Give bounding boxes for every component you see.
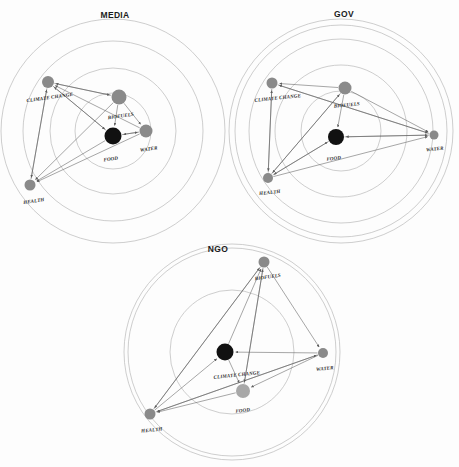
node-biofuels[interactable]: BIOFUELS: [333, 82, 361, 109]
node-label-climate-change: CLIMATE CHANGE: [254, 93, 301, 103]
node-health[interactable]: HEALTH: [258, 173, 282, 196]
edge-health-to-water: [273, 137, 427, 177]
edge-biofuels-to-food: [338, 95, 344, 127]
node-circle-biofuels[interactable]: [112, 90, 127, 105]
node-label-food: FOOD: [235, 407, 250, 414]
edge-water-to-health: [37, 134, 140, 182]
node-circle-water[interactable]: [140, 125, 153, 138]
panel-title-gov: GOV: [334, 9, 354, 19]
node-label-biofuels: BIOFUELS: [253, 273, 281, 282]
node-circle-food[interactable]: [328, 129, 344, 145]
node-label-biofuels: BIOFUELS: [333, 101, 361, 109]
node-circle-climate-change[interactable]: [42, 76, 54, 88]
node-health[interactable]: HEALTH: [140, 409, 164, 434]
node-label-water: WATER: [426, 146, 445, 153]
panel-gov: CLIMATE CHANGEBIOFUELSFOODWATERHEALTHGOV: [229, 9, 453, 243]
node-water[interactable]: WATER: [140, 125, 159, 153]
edge-water-to-food: [346, 135, 429, 137]
node-label-health: HEALTH: [258, 189, 282, 196]
node-circle-climate-change[interactable]: [267, 78, 278, 89]
node-label-food: FOOD: [326, 155, 341, 162]
node-label-water: WATER: [316, 365, 335, 372]
node-health[interactable]: HEALTH: [22, 180, 46, 206]
node-food[interactable]: FOOD: [326, 129, 344, 162]
node-climate-change[interactable]: CLIMATE CHANGE: [213, 344, 260, 380]
edge-food-to-health: [157, 393, 235, 412]
node-water[interactable]: WATER: [316, 348, 335, 372]
edge-food-to-water: [122, 132, 137, 134]
node-label-food: FOOD: [103, 155, 119, 162]
panel-media: CLIMATE CHANGEBIOFUELSWATERFOODHEALTHMED…: [1, 10, 225, 243]
node-food[interactable]: FOOD: [235, 384, 250, 414]
node-food[interactable]: FOOD: [103, 128, 121, 163]
edge-food-to-health: [37, 141, 106, 182]
node-circle-biofuels[interactable]: [339, 82, 352, 95]
node-water[interactable]: WATER: [426, 131, 445, 153]
edge-water-to-food: [251, 355, 318, 387]
edge-biofuels-to-water: [351, 91, 428, 132]
edge-health-to-climate-change: [31, 90, 47, 179]
node-label-climate-change: CLIMATE CHANGE: [26, 92, 73, 104]
node-circle-biofuels[interactable]: [259, 257, 270, 268]
node-circle-health[interactable]: [263, 173, 273, 183]
node-circle-water[interactable]: [430, 131, 439, 140]
edge-biofuels-to-climate-change: [280, 84, 338, 88]
node-label-water: WATER: [140, 145, 159, 152]
node-circle-water[interactable]: [318, 348, 328, 358]
network-diagram-figure: CLIMATE CHANGEBIOFUELSWATERFOODHEALTHMED…: [0, 0, 459, 467]
node-label-health: HEALTH: [22, 197, 46, 205]
node-circle-food[interactable]: [105, 128, 122, 145]
edge-biofuels-to-health: [35, 103, 113, 180]
node-circle-climate-change[interactable]: [217, 344, 234, 361]
panel-title-ngo: NGO: [208, 244, 228, 254]
node-circle-health[interactable]: [25, 180, 36, 191]
node-biofuels[interactable]: BIOFUELS: [253, 257, 281, 282]
panel-title-media: MEDIA: [101, 10, 130, 20]
node-circle-health[interactable]: [145, 409, 156, 420]
edge-water-to-health: [157, 355, 318, 412]
panel-ngo: BIOFUELSCLIMATE CHANGEWATERFOODHEALTHNGO: [124, 244, 340, 460]
edge-water-to-climate-change: [236, 352, 318, 353]
edge-climate-change-to-food: [229, 360, 239, 382]
node-circle-food[interactable]: [236, 384, 250, 398]
